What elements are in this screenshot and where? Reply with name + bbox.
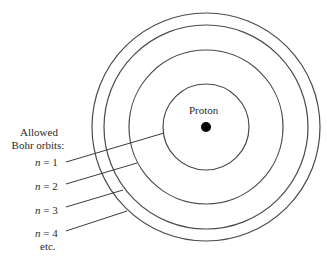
orbit-number: = 1 [41,156,58,168]
pointer-n4 [66,211,127,231]
proton-dot [201,122,211,132]
orbit-label-n1: n = 1 [35,156,58,169]
etc-label: etc. [40,240,56,253]
pointer-n3 [66,190,123,207]
orbit-label-n3: n = 3 [35,204,58,217]
proton-label: Proton [189,104,218,117]
legend-title-line1: Allowed [14,126,64,139]
orbit-number: = 2 [41,180,58,192]
orbit-label-n2: n = 2 [35,180,58,193]
orbit-number: = 3 [41,204,58,216]
orbit-number: = 4 [41,227,58,239]
orbit-label-n4: n = 4 [35,227,58,240]
pointer-n1 [66,133,164,162]
pointer-n2 [66,163,137,184]
legend-title-line2: Bohr orbits: [6,139,70,152]
